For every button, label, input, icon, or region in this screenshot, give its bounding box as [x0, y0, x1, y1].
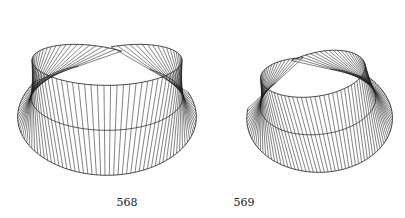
figure-number-568: 568	[117, 196, 138, 209]
band-edge-lower	[18, 81, 197, 175]
figure-number-569: 569	[234, 196, 255, 209]
ruled-surface-568	[18, 44, 197, 175]
figure-canvas	[0, 0, 405, 218]
band-edge-upper	[32, 44, 182, 85]
ruled-surface-569	[247, 50, 393, 172]
